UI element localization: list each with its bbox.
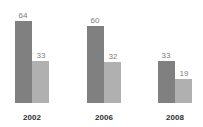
bar-group-2006: 60 32 2006 <box>87 0 122 127</box>
grouped-bar-chart: 64 33 2002 60 32 2006 33 <box>0 0 203 127</box>
category-label-2002: 2002 <box>7 113 57 123</box>
bar-fill <box>158 61 175 103</box>
bar-value-label: 64 <box>12 11 34 20</box>
bar-2006-series-1[interactable]: 60 <box>87 26 104 103</box>
bar-2006-series-2[interactable]: 32 <box>104 62 121 103</box>
bar-value-label: 32 <box>102 52 124 61</box>
bar-fill <box>87 26 104 103</box>
bar-fill <box>32 61 49 103</box>
bar-value-label: 33 <box>30 51 52 60</box>
bar-value-label: 33 <box>155 51 177 60</box>
bar-2008-series-1[interactable]: 33 <box>158 61 175 103</box>
bar-2002-series-1[interactable]: 64 <box>15 21 32 103</box>
bar-2008-series-2[interactable]: 19 <box>175 79 192 103</box>
bar-2002-series-2[interactable]: 33 <box>32 61 49 103</box>
category-label-2006: 2006 <box>79 113 129 123</box>
bar-group-2008: 33 19 2008 <box>158 0 193 127</box>
bar-value-label: 19 <box>173 69 195 78</box>
bar-value-label: 60 <box>84 16 106 25</box>
bar-fill <box>15 21 32 103</box>
category-label-2008: 2008 <box>150 113 200 123</box>
bar-fill <box>104 62 121 103</box>
bar-group-2002: 64 33 2002 <box>15 0 50 127</box>
bar-fill <box>175 79 192 103</box>
